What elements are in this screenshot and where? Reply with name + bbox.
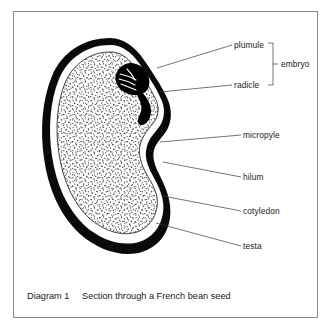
leader-line-micropyle (160, 135, 241, 142)
embryo-bracket (268, 43, 278, 85)
leader-line-radicle (160, 85, 232, 92)
leader-line-cotyledon (163, 196, 241, 211)
label-testa: testa (243, 241, 262, 251)
figure-caption: Diagram 1 Section through a French bean … (27, 291, 231, 301)
label-group: plumule radicle embryo micropyle hilum c… (234, 40, 310, 251)
label-cotyledon: cotyledon (243, 206, 280, 216)
label-hilum: hilum (243, 172, 264, 182)
caption-number: Diagram 1 (27, 291, 69, 301)
figure-root: plumule radicle embryo micropyle hilum c… (0, 0, 332, 331)
label-radicle: radicle (234, 80, 260, 90)
label-plumule: plumule (234, 40, 264, 50)
leader-line-hilum (163, 162, 241, 177)
bracket-path (268, 43, 273, 85)
seed-diagram: plumule radicle embryo micropyle hilum c… (0, 0, 332, 331)
label-embryo: embryo (281, 59, 310, 69)
leader-line-testa (156, 223, 241, 246)
leader-line-plumule (157, 45, 232, 68)
caption-title: Section through a French bean seed (82, 291, 231, 301)
label-micropyle: micropyle (243, 130, 280, 140)
seed-illustration (42, 38, 171, 254)
